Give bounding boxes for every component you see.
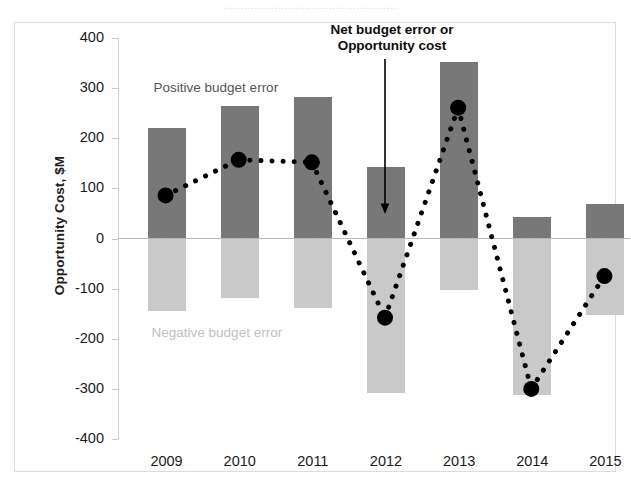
y-tick-label: -300 — [58, 381, 104, 395]
y-tick — [112, 138, 118, 139]
bar-negative — [367, 239, 405, 393]
annotation-line-2: Opportunity cost — [292, 38, 492, 54]
y-tick — [112, 239, 118, 240]
x-tick-label: 2011 — [278, 453, 348, 469]
bar-negative — [586, 239, 624, 315]
x-tick-label: 2013 — [424, 453, 494, 469]
y-tick-label: 200 — [58, 130, 104, 144]
bar-negative — [440, 239, 478, 291]
bar-positive — [440, 62, 478, 238]
bar-negative — [513, 239, 551, 396]
bar-negative — [148, 239, 186, 312]
bar-positive — [367, 167, 405, 239]
x-tick-label: 2015 — [570, 453, 631, 469]
y-tick — [112, 289, 118, 290]
y-tick-label: -200 — [58, 331, 104, 345]
y-tick — [112, 188, 118, 189]
plot-area: 4003002001000-100-200-300-400 2009201020… — [118, 38, 630, 439]
y-tick — [112, 339, 118, 340]
x-tick-label: 2009 — [132, 453, 202, 469]
bar-positive — [586, 204, 624, 238]
y-tick — [112, 38, 118, 39]
bar-positive — [513, 217, 551, 238]
y-tick-label: 100 — [58, 180, 104, 194]
bar-negative — [294, 239, 332, 308]
negative-budget-error-label: Negative budget error — [152, 325, 283, 340]
positive-budget-error-label: Positive budget error — [154, 80, 279, 95]
y-tick — [112, 88, 118, 89]
x-tick-label: 2014 — [497, 453, 567, 469]
y-tick-label: 0 — [58, 231, 104, 245]
chart-frame: Opportunity Cost, $M 4003002001000-100-2… — [14, 22, 616, 472]
x-tick-label: 2012 — [351, 453, 421, 469]
annotation-line-1: Net budget error or — [292, 22, 492, 38]
bar-positive — [148, 128, 186, 238]
bar-positive — [294, 97, 332, 238]
y-tick-label: -100 — [58, 281, 104, 295]
clipped-caption: …………………………………………… — [95, 0, 525, 12]
y-tick-label: 300 — [58, 80, 104, 94]
chart-figure: …………………………………………… Opportunity Cost, $M 4… — [0, 0, 631, 489]
y-tick — [112, 439, 118, 440]
bar-negative — [221, 239, 259, 298]
bar-positive — [221, 106, 259, 239]
y-tick-label: 400 — [58, 30, 104, 44]
net-budget-error-annotation: Net budget error or Opportunity cost — [292, 22, 492, 54]
y-tick — [112, 389, 118, 390]
y-tick-label: -400 — [58, 431, 104, 445]
x-tick-label: 2010 — [205, 453, 275, 469]
